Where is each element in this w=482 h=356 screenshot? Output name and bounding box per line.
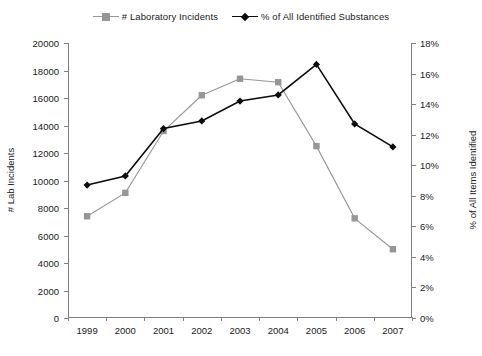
right-y-tick — [412, 165, 416, 166]
data-point[interactable] — [236, 97, 243, 104]
data-point[interactable] — [351, 215, 357, 221]
x-tick-label: 2004 — [268, 325, 289, 336]
x-tick-label: 2002 — [191, 325, 212, 336]
right-y-axis-title: % of All Items Identified — [467, 131, 478, 230]
legend-item-identified-substances[interactable]: % of All Identified Substances — [232, 11, 389, 22]
diamond-marker-icon — [232, 12, 258, 22]
right-y-tick-label: 4% — [420, 251, 434, 262]
right-y-tick-label: 2% — [420, 282, 434, 293]
right-y-tick — [412, 43, 416, 44]
right-y-tick-label: 18% — [420, 38, 439, 49]
data-point[interactable] — [84, 181, 91, 188]
x-tick-label: 2007 — [382, 325, 403, 336]
data-point[interactable] — [389, 143, 396, 150]
right-y-tick-label: 6% — [420, 221, 434, 232]
legend-item-label: % of All Identified Substances — [261, 11, 389, 22]
left-y-tick-label: 12000 — [33, 148, 68, 159]
x-tick-label: 2006 — [344, 325, 365, 336]
data-point[interactable] — [237, 76, 243, 82]
left-y-tick-label: 8000 — [38, 203, 68, 214]
x-tick-label: 1999 — [77, 325, 98, 336]
data-point[interactable] — [84, 213, 90, 219]
right-y-tick-label: 14% — [420, 99, 439, 110]
right-y-tick — [412, 196, 416, 197]
right-y-tick-label: 12% — [420, 129, 439, 140]
right-y-tick — [412, 226, 416, 227]
data-point[interactable] — [198, 117, 205, 124]
data-point[interactable] — [122, 190, 128, 196]
x-tick-label: 2000 — [115, 325, 136, 336]
x-tick-label: 2001 — [153, 325, 174, 336]
right-y-tick — [412, 135, 416, 136]
right-y-tick-label: 10% — [420, 160, 439, 171]
x-tick — [412, 317, 413, 321]
right-y-tick-label: 16% — [420, 68, 439, 79]
legend-item-laboratory-incidents[interactable]: # Laboratory Incidents — [93, 11, 218, 22]
left-y-tick-label: 10000 — [33, 175, 68, 186]
right-y-tick-label: 8% — [420, 190, 434, 201]
data-point[interactable] — [275, 79, 281, 85]
right-y-tick — [412, 104, 416, 105]
left-y-tick-label: 6000 — [38, 230, 68, 241]
series-plot — [68, 43, 412, 318]
left-y-tick-label: 16000 — [33, 93, 68, 104]
data-point[interactable] — [390, 246, 396, 252]
right-y-tick — [412, 287, 416, 288]
left-y-tick-label: 2000 — [38, 285, 68, 296]
left-y-tick-label: 20000 — [33, 38, 68, 49]
x-tick-label: 2003 — [229, 325, 250, 336]
data-point[interactable] — [199, 92, 205, 98]
left-y-tick-label: 4000 — [38, 258, 68, 269]
left-y-tick-label: 14000 — [33, 120, 68, 131]
left-y-tick-label: 0 — [54, 313, 68, 324]
right-y-tick — [412, 74, 416, 75]
chart-legend: # Laboratory Incidents % of All Identifi… — [0, 11, 482, 22]
left-y-tick-label: 18000 — [33, 65, 68, 76]
x-tick-label: 2005 — [306, 325, 327, 336]
dual-axis-line-chart: # Laboratory Incidents % of All Identifi… — [0, 0, 482, 356]
square-marker-icon — [93, 12, 119, 22]
data-point[interactable] — [313, 143, 319, 149]
left-y-axis-title: # Lab Incidents — [5, 148, 16, 212]
legend-item-label: # Laboratory Incidents — [122, 11, 218, 22]
right-y-tick-label: 0% — [420, 313, 434, 324]
series-line-1 — [87, 64, 393, 185]
right-y-tick — [412, 257, 416, 258]
plot-area: 0200040006000800010000120001400016000180… — [68, 43, 412, 318]
